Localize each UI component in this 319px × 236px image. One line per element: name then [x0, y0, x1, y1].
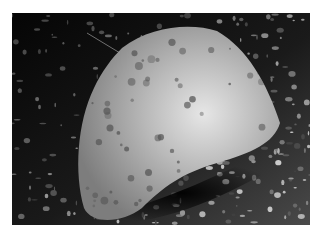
fish-spot: [105, 101, 111, 107]
pebble: [29, 172, 32, 174]
pebble: [45, 49, 47, 53]
pebble: [29, 186, 31, 190]
fish-spot: [135, 62, 143, 70]
pebble: [157, 24, 162, 30]
fish-spot: [93, 199, 96, 202]
pebble: [48, 173, 53, 175]
pebble: [18, 214, 24, 219]
pebble: [18, 89, 22, 94]
pebble: [62, 42, 64, 45]
fish-spot: [86, 186, 90, 190]
pebble: [237, 189, 243, 194]
pebble: [266, 14, 271, 19]
fish-spot: [208, 47, 214, 53]
pebble: [288, 178, 294, 180]
pebble: [87, 22, 94, 26]
pebble: [289, 179, 292, 181]
pebble: [223, 161, 230, 165]
pebble: [247, 53, 250, 55]
pebble: [71, 136, 76, 138]
fish-spot: [128, 78, 136, 86]
pebble: [236, 205, 237, 207]
fish-spot: [168, 39, 175, 46]
pebble: [14, 119, 21, 121]
pebble: [297, 114, 301, 119]
fish-spot: [155, 58, 159, 62]
pebble: [294, 124, 296, 126]
pebble: [60, 124, 62, 126]
pebble: [247, 210, 252, 212]
pebble: [239, 18, 243, 21]
pebble: [55, 103, 56, 107]
fish-spot: [142, 59, 145, 62]
fish-spot: [101, 197, 109, 205]
pebble: [93, 67, 98, 70]
pebble: [76, 201, 77, 206]
pebble: [280, 140, 285, 144]
pebble: [298, 167, 304, 172]
pebble: [39, 123, 46, 125]
pebble: [298, 214, 305, 219]
fish-spot: [120, 144, 123, 147]
pebble: [232, 214, 236, 217]
fish-spot: [179, 48, 186, 55]
pebble: [253, 54, 258, 59]
pebble: [283, 191, 286, 194]
fish-spot: [96, 139, 102, 145]
pebble: [291, 85, 297, 90]
pebble: [226, 220, 232, 224]
pebble: [74, 115, 80, 116]
pebble: [67, 211, 71, 216]
fish-spot: [177, 169, 181, 173]
fish-spot: [124, 147, 129, 152]
pebble: [35, 178, 41, 179]
pebble: [285, 127, 292, 130]
pebble: [294, 143, 300, 149]
pebble: [31, 199, 38, 200]
pebble: [14, 147, 19, 150]
pebble: [178, 181, 183, 186]
pebble: [271, 77, 273, 82]
pebble: [78, 44, 81, 47]
pebble: [251, 34, 257, 36]
pebble: [75, 148, 78, 149]
pebble: [91, 26, 94, 31]
pebble: [52, 34, 54, 36]
fish-spot: [200, 112, 204, 116]
pebble: [172, 222, 178, 225]
pebble: [28, 197, 31, 201]
pebble: [206, 166, 213, 170]
pebble: [268, 207, 273, 213]
fish-spot: [93, 205, 96, 208]
fish-spot: [175, 78, 179, 82]
pebble: [240, 215, 245, 217]
pebble: [34, 28, 40, 31]
pebble: [270, 18, 274, 21]
pebble: [256, 179, 261, 184]
pebble: [290, 132, 294, 133]
pebble: [229, 192, 235, 194]
fish-spot: [114, 75, 117, 78]
fish-spot: [247, 72, 253, 78]
pebble: [73, 93, 75, 97]
pebble: [217, 19, 223, 23]
pebble: [45, 184, 52, 188]
pebble: [256, 35, 257, 40]
pebble: [270, 76, 275, 77]
pebble: [46, 15, 50, 17]
pebble: [308, 131, 309, 135]
pebble: [221, 164, 224, 169]
photograph: [12, 13, 310, 225]
pebble: [38, 49, 41, 54]
pebble: [236, 23, 239, 26]
fish-spot: [178, 83, 183, 88]
pebble: [187, 215, 190, 219]
pebble: [288, 71, 295, 77]
pebble: [17, 80, 24, 82]
pebble: [292, 103, 295, 105]
pebble: [97, 74, 98, 79]
pebble: [304, 100, 310, 106]
pebble: [50, 190, 57, 196]
fish-spot: [131, 99, 134, 102]
pebble: [294, 171, 296, 172]
